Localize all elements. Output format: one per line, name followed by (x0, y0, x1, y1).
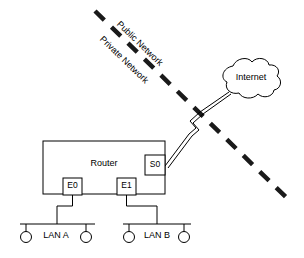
lan-b-host-1 (124, 232, 135, 243)
lan-b-drop-link (127, 195, 158, 224)
zone-labels: Public Network Private Network (98, 19, 165, 86)
port-e1-label: E1 (121, 180, 132, 190)
lan-a-host-1 (21, 232, 32, 243)
cloud-label: Internet (236, 72, 267, 82)
lan-b-group: LAN B (123, 195, 191, 243)
lan-a-host-2 (81, 232, 92, 243)
serial-link-lower-edge-a (165, 134, 189, 166)
serial-link-upper-edge-b (203, 94, 231, 114)
router-label: Router (90, 158, 117, 168)
network-diagram: Public Network Private Network Internet … (0, 0, 304, 258)
lan-b-host-2 (179, 232, 190, 243)
lan-b-label: LAN B (144, 230, 170, 240)
lan-a-drop-link (57, 195, 73, 224)
internet-cloud: Internet (223, 58, 281, 98)
serial-link-lower-edge-b (168, 136, 192, 168)
lan-a-group: LAN A (20, 195, 95, 243)
port-e0-label: E0 (67, 180, 78, 190)
lan-a-label: LAN A (43, 230, 69, 240)
diagram-canvas: Public Network Private Network Internet … (0, 0, 304, 258)
port-s0-label: S0 (150, 159, 161, 169)
serial-link-s0-internet (165, 92, 231, 168)
serial-link-upper-edge-a (200, 92, 229, 112)
